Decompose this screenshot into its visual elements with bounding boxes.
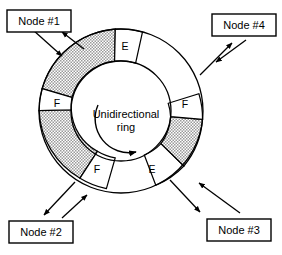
center-label-line1: Unidirectional <box>93 108 160 120</box>
node-3-label: Node #3 <box>218 224 260 236</box>
ring-network-diagram: E F E F F Unidirectional ring Node #1 No… <box>0 0 282 255</box>
connector-ring-to-node-3 <box>170 180 200 212</box>
segment-e-top <box>115 29 143 63</box>
connector-ring-to-node-4 <box>200 43 232 75</box>
node-2-label: Node #2 <box>20 226 62 238</box>
connector-node-3-to-ring <box>199 183 240 213</box>
diagram-canvas: E F E F F Unidirectional ring Node #1 No… <box>0 0 282 255</box>
node-box-4[interactable]: Node #4 <box>212 14 276 36</box>
segment-label-e-top: E <box>121 40 128 52</box>
node-box-1[interactable]: Node #1 <box>7 10 71 32</box>
segment-label-f-left: F <box>54 97 60 109</box>
segment-label-f-right: F <box>182 98 188 110</box>
segment-label-f-bottom-left: F <box>94 163 100 175</box>
center-label-line2: ring <box>117 121 135 133</box>
connector-node-2-to-ring <box>62 195 87 218</box>
node-1-label: Node #1 <box>18 15 60 27</box>
segment-label-e-bottom-right: E <box>148 163 155 175</box>
node-4-label: Node #4 <box>223 19 265 31</box>
node-box-3[interactable]: Node #3 <box>207 219 271 241</box>
node-box-2[interactable]: Node #2 <box>9 221 73 243</box>
connector-node-1-to-ring <box>33 30 62 56</box>
